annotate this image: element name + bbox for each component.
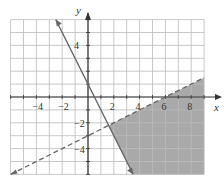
x-tick-label: 2 [110,101,115,112]
inequality-graph: −4−224684−2−4xy [0,0,224,179]
y-tick-label: 4 [74,40,79,51]
y-tick-label: −4 [74,144,85,155]
y-axis-arrow-icon [85,12,91,20]
x-axis-label: x [213,101,219,113]
shaded-region [109,78,204,175]
y-tick-label: −2 [74,118,85,129]
y-axis-label: y [75,4,81,16]
x-axis-arrow-icon [215,94,222,100]
plot-area: −4−224684−2−4xy [0,0,224,179]
dashed-line-arrow-icon [11,169,18,174]
x-tick-label: −4 [32,101,43,112]
x-tick-label: −2 [58,101,69,112]
x-tick-label: 6 [161,101,166,112]
x-tick-label: 8 [187,101,192,112]
